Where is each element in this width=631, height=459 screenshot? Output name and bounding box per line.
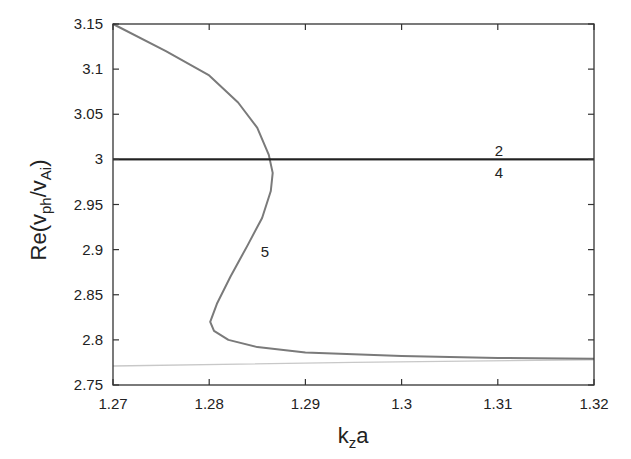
y-tick-label: 3: [95, 150, 103, 167]
y-tick-label: 2.8: [82, 331, 103, 348]
chart: 1.271.281.291.31.311.322.752.82.852.92.9…: [0, 0, 631, 459]
series-line-5: [113, 24, 594, 359]
x-axis-title: kza: [338, 423, 370, 451]
y-tick-label: 2.95: [74, 196, 103, 213]
y-tick-label: 3.15: [74, 15, 103, 32]
x-tick-label: 1.31: [483, 395, 512, 412]
y-tick-label: 2.9: [82, 241, 103, 258]
y-tick-label: 2.85: [74, 286, 103, 303]
curve-label-4: 4: [495, 164, 503, 181]
x-tick-label: 1.3: [391, 395, 412, 412]
y-tick-label: 3.05: [74, 105, 103, 122]
y-axis-title: Re(vph/vAi): [26, 160, 54, 261]
curve-label-2: 2: [495, 142, 503, 159]
y-tick-label: 3.1: [82, 60, 103, 77]
y-tick-label: 2.75: [74, 376, 103, 393]
x-tick-label: 1.32: [579, 395, 608, 412]
x-tick-label: 1.28: [195, 395, 224, 412]
plot-lines: [113, 24, 594, 366]
series-line-unlabeled: [113, 360, 594, 366]
x-tick-label: 1.27: [98, 395, 127, 412]
plot-frame: [113, 24, 594, 385]
curve-label-5: 5: [261, 243, 269, 260]
x-tick-label: 1.29: [291, 395, 320, 412]
axis-ticks: 1.271.281.291.31.311.322.752.82.852.92.9…: [74, 15, 609, 412]
